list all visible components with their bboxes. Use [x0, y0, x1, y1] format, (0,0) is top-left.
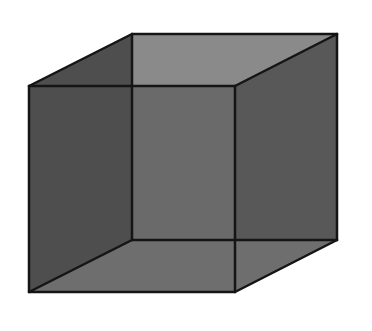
- necker-cube-diagram: [0, 0, 372, 331]
- cube-svg: [0, 0, 372, 331]
